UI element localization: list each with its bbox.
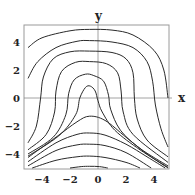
curve-11 [70,166,108,168]
y-tick-label: −4 [5,149,20,160]
y-tick-label: 0 [13,93,20,104]
y-tick-label: 4 [13,37,20,48]
x-tick-label: 0 [95,174,102,185]
x-tick-label: 4 [151,174,158,185]
y-axis-label: y [94,9,103,23]
y-tick-label: −2 [5,121,20,132]
x-tick-label: 2 [123,174,130,185]
y-tick-labels: 420−2−4 [5,37,20,160]
x-axis-label: x [178,91,186,105]
x-tick-label: −2 [62,174,77,185]
x-tick-label: −4 [34,174,49,185]
x-tick-labels: −4−2024 [34,174,157,185]
y-tick-label: 2 [13,65,20,76]
phase-portrait-plot: −4−2024 420−2−4 y x [0,0,195,195]
